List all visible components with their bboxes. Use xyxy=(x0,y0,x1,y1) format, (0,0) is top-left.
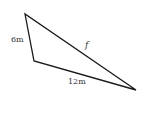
side-left-label: 6m xyxy=(11,35,24,44)
triangle-diagram: 6m f 12m xyxy=(0,0,148,125)
side-bottom-label: 12m xyxy=(68,77,86,86)
side-hypotenuse-label: f xyxy=(84,40,90,50)
